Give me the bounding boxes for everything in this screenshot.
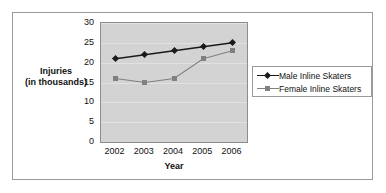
chart-figure: Injuries (in thousands) 051015202530 200… [0, 0, 386, 193]
y-axis-tick-label: 15 [68, 78, 94, 87]
legend-item-female: Female Inline Skaters [257, 83, 371, 95]
data-point-female-2002 [113, 76, 118, 81]
y-axis-tick-label: 20 [68, 58, 94, 67]
legend-label-male: Male Inline Skaters [279, 71, 351, 81]
y-axis-tick-label: 10 [68, 97, 94, 106]
x-axis-tick-label: 2006 [214, 147, 248, 156]
data-point-female-2005 [201, 56, 206, 61]
y-axis-title-line1: Injuries [16, 66, 96, 77]
series-lines [101, 23, 247, 142]
y-axis-tick-label: 25 [68, 38, 94, 47]
y-axis-tick-label: 0 [68, 137, 94, 146]
data-point-female-2004 [172, 76, 177, 81]
x-axis-title: Year [100, 161, 248, 171]
legend-label-female: Female Inline Skaters [279, 84, 361, 94]
data-point-female-2003 [142, 80, 147, 85]
legend-item-male: Male Inline Skaters [257, 70, 371, 82]
chart-legend: Male Inline Skaters Female Inline Skater… [252, 66, 372, 97]
legend-swatch-male [257, 71, 279, 81]
plot-area [100, 22, 248, 143]
y-axis-tick-label: 5 [68, 117, 94, 126]
y-axis-tick-label: 30 [68, 18, 94, 27]
legend-swatch-female [257, 84, 279, 94]
data-point-female-2006 [230, 48, 235, 53]
square-marker-icon [265, 86, 270, 91]
diamond-marker-icon [264, 72, 271, 79]
